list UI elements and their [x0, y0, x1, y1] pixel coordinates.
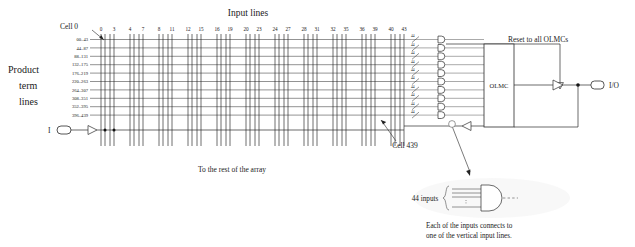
input-line-number: 28	[301, 26, 307, 32]
bus-width-label: 44	[411, 85, 415, 89]
range-label: 176–219	[72, 71, 89, 76]
feedback-wire	[514, 85, 578, 127]
range-label: 396–439	[72, 113, 89, 118]
input-line-number: 16	[214, 26, 220, 32]
input-line-number: 7	[142, 26, 145, 32]
input-line-number: 0	[100, 26, 103, 32]
input-line-number: 39	[372, 26, 378, 32]
range-label: 88–131	[74, 54, 88, 59]
input-line-number: 36	[359, 26, 365, 32]
io-pad	[591, 81, 604, 89]
bus-width-label: 44	[411, 60, 415, 64]
input-pad-label: I	[48, 126, 51, 135]
bus-width-label: 44	[411, 51, 415, 55]
input-line-number: 24	[272, 26, 278, 32]
input-line-number: 31	[314, 26, 320, 32]
input-line-number: 27	[285, 26, 291, 32]
detail-arrowhead	[466, 169, 470, 176]
bus-width-label: 44	[411, 76, 415, 80]
input-line-number: 3	[113, 26, 116, 32]
rest-of-array-label: To the rest of the array	[198, 165, 266, 174]
detail-caption-line1: Each of the inputs connects to	[426, 222, 513, 230]
input-line-number: 23	[256, 26, 262, 32]
input-line-numbers: 0 3 4 7 8 11 12 15 16 19 20 23 24 27 28 …	[100, 26, 407, 32]
tristate-buffer-icon	[553, 80, 563, 90]
cell-439-arrowhead	[381, 120, 386, 124]
range-label: 220–263	[72, 79, 89, 84]
and-gate-detail: 44 inputs Each of the inputs connects to…	[412, 178, 570, 240]
product-term-label-line3: lines	[19, 96, 38, 107]
feedback-buffer-icon	[462, 122, 471, 131]
product-term-label-line1: Product	[8, 64, 39, 75]
input-line-number: 32	[330, 26, 336, 32]
cell-439-label: Cell 439	[392, 141, 418, 150]
olmc-label: OLMC	[490, 82, 509, 89]
input-pad	[57, 126, 71, 134]
input-line-number: 12	[185, 26, 191, 32]
pal-array-diagram: Input lines Cell 0 Product term lines 00…	[0, 0, 635, 247]
connection-dot	[104, 129, 107, 132]
input-line-number: 43	[401, 26, 407, 32]
range-label: 352–395	[72, 104, 89, 109]
range-label: 00–43	[77, 37, 89, 42]
product-term-lines	[90, 40, 404, 116]
range-label: 44–87	[77, 46, 89, 51]
input-line-number: 4	[129, 26, 132, 32]
bus-width-label: 44	[411, 68, 415, 72]
product-term-label-line2: term	[19, 80, 38, 91]
detail-44-inputs-label: 44 inputs	[412, 195, 439, 203]
input-line-number: 15	[198, 26, 204, 32]
input-line-number: 20	[243, 26, 249, 32]
input-line-number: 35	[343, 26, 349, 32]
detail-circle-marker	[449, 121, 456, 128]
input-line-number: 11	[170, 26, 175, 32]
input-buffer-icon	[88, 126, 97, 135]
range-label: 132–175	[72, 62, 89, 67]
cell-0-label: Cell 0	[60, 22, 78, 31]
reset-label: Reset to all OLMCs	[508, 35, 568, 44]
product-term-range-labels: 00–43 44–87 88–131 132–175 176–219 220–2…	[72, 37, 89, 118]
bus-width-label: 44	[411, 102, 415, 106]
bus-width-label: 44	[411, 93, 415, 97]
io-label: I/O	[609, 81, 620, 90]
input-line-number: 19	[227, 26, 233, 32]
and-gate-bank: 44 44 44 44 44 44 44	[404, 34, 484, 118]
input-lines-title: Input lines	[228, 8, 269, 18]
range-label: 308–351	[72, 96, 89, 101]
detail-leader	[452, 126, 470, 172]
input-line-number: 40	[388, 26, 394, 32]
bus-width-label: 44	[411, 110, 415, 114]
bus-width-label: 44	[411, 43, 415, 47]
connection-dot	[113, 129, 116, 132]
range-label: 264–307	[72, 88, 89, 93]
input-line-number: 8	[158, 26, 161, 32]
bus-width-label: 44	[411, 34, 415, 38]
detail-caption-line2: one of the vertical input lines.	[426, 232, 512, 240]
